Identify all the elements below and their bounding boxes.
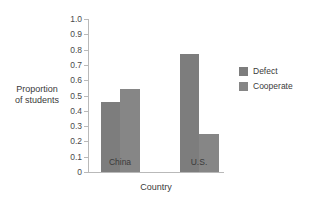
x-tick-label: U.S.: [191, 158, 208, 167]
y-tick-mark: [84, 141, 88, 142]
y-tick-label: 0.9: [70, 30, 82, 39]
legend-swatch: [239, 67, 248, 76]
legend-item: Cooperate: [239, 81, 293, 92]
y-tick-label: 0.5: [70, 91, 82, 100]
legend-swatch: [239, 82, 248, 91]
y-tick-mark: [84, 111, 88, 112]
y-tick-label: 0: [77, 168, 82, 177]
y-tick-label: 0.8: [70, 45, 82, 54]
legend: DefectCooperate: [239, 66, 293, 96]
x-axis-title: Country: [88, 182, 224, 192]
y-tick-label: 0.3: [70, 122, 82, 131]
bar-chart: Proportion of students 00.10.20.30.40.50…: [0, 0, 315, 206]
y-tick-mark: [84, 50, 88, 51]
legend-item: Defect: [239, 66, 293, 77]
y-tick-mark: [84, 126, 88, 127]
y-tick-label: 0.4: [70, 107, 82, 116]
y-axis-line: [88, 19, 89, 172]
bar: [180, 54, 200, 172]
y-tick-mark: [84, 96, 88, 97]
y-tick-mark: [84, 19, 88, 20]
y-tick-label: 0.6: [70, 76, 82, 85]
x-axis-line: [88, 172, 224, 173]
y-tick-label: 0.1: [70, 152, 82, 161]
y-axis-title: Proportion of students: [6, 84, 68, 106]
y-tick-label: 0.7: [70, 61, 82, 70]
legend-label: Cooperate: [253, 82, 293, 91]
y-tick-label: 1.0: [70, 15, 82, 24]
plot-area: 00.10.20.30.40.50.60.70.80.91.0: [88, 19, 224, 172]
y-tick-mark: [84, 80, 88, 81]
y-tick-label: 0.2: [70, 137, 82, 146]
legend-label: Defect: [253, 67, 278, 76]
y-tick-mark: [84, 65, 88, 66]
y-tick-mark: [84, 157, 88, 158]
y-tick-mark: [84, 34, 88, 35]
x-tick-label: China: [109, 158, 131, 167]
y-tick-mark: [84, 172, 88, 173]
